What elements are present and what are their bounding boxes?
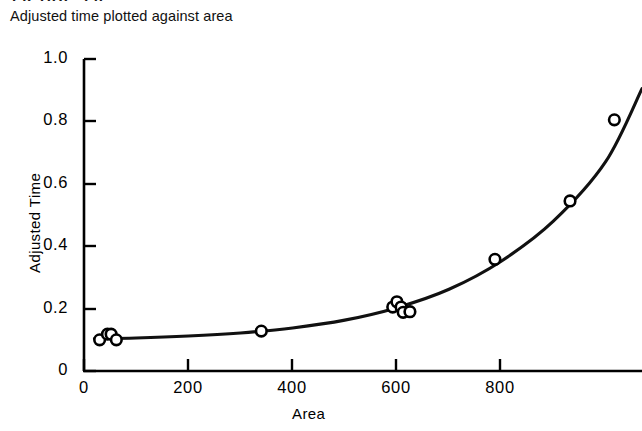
y-tick-label-0-2: 0.2 (4, 298, 68, 317)
x-tick-label-600: 600 (366, 378, 426, 397)
x-tick-label-200: 200 (158, 378, 218, 397)
data-point (609, 115, 620, 126)
data-point (111, 335, 122, 346)
figure-container: FIGURE 2.9 Adjusted time plotted against… (0, 0, 642, 431)
data-point (405, 306, 416, 317)
x-tick-label-400: 400 (262, 378, 322, 397)
x-axis-ticks (84, 359, 500, 371)
data-point (565, 196, 576, 207)
y-axis-ticks (84, 59, 96, 371)
y-axis-title: Adjusted Time (26, 173, 43, 273)
x-tick-label-800: 800 (470, 378, 530, 397)
fitted-curve (94, 89, 642, 339)
data-point (490, 254, 501, 265)
scatter-plot (0, 0, 642, 431)
data-point-group (94, 115, 619, 346)
y-tick-label-1-0: 1.0 (4, 48, 68, 67)
y-tick-label-0-8: 0.8 (4, 110, 68, 129)
data-point (256, 326, 267, 337)
y-tick-label-0: 0 (4, 360, 68, 379)
x-tick-label-0: 0 (54, 378, 114, 397)
x-axis-title: Area (292, 405, 325, 422)
